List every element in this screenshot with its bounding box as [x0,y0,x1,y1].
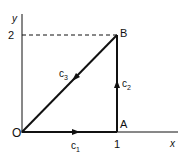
arrow-c2-icon [114,80,120,88]
y-axis-label: y [11,13,18,24]
path-c2-label: c2 [122,78,131,91]
point-a-label: A [120,118,128,130]
path-c3-label: c3 [59,68,68,81]
point-b-label: B [120,27,127,39]
path-c1-label: c1 [71,140,80,153]
x-axis-label: x [169,138,176,149]
path-c3 [22,35,117,132]
arrow-c1-icon [72,129,80,135]
point-origin-label: O [12,126,21,140]
path-diagram: y x 2 1 O A B c1 c2 c3 [0,0,182,156]
y-tick-label: 2 [8,29,14,41]
x-tick-label: 1 [114,138,120,150]
